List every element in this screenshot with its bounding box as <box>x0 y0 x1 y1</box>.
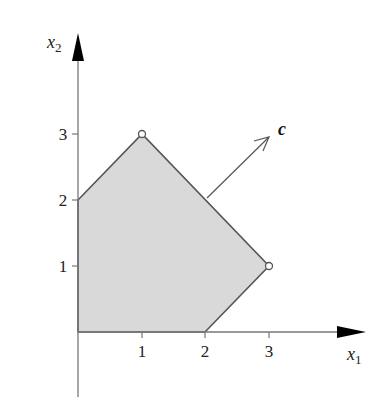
y-tick-label-2: 2 <box>59 191 68 210</box>
feasible-region <box>78 134 269 332</box>
y-ticks <box>72 134 78 266</box>
y-tick-label-3: 3 <box>59 125 68 144</box>
y-axis-label-main: x <box>46 32 55 52</box>
feasible-region-diagram: 1 2 3 1 2 3 x1 x2 c <box>0 0 384 415</box>
x-axis-arrowhead-icon <box>337 326 366 338</box>
vertex-marker-3-1 <box>266 263 273 270</box>
x-tick-label-3: 3 <box>265 342 274 361</box>
x-ticks <box>142 332 269 338</box>
y-axis-label: x2 <box>46 32 62 55</box>
y-tick-label-1: 1 <box>59 257 68 276</box>
objective-vector-label: c <box>278 119 286 139</box>
x-tick-label-1: 1 <box>138 342 147 361</box>
vertex-marker-1-3 <box>139 131 146 138</box>
objective-vector <box>207 137 269 198</box>
y-axis-arrowhead-icon <box>72 33 84 61</box>
x-axis-label-main: x <box>346 344 355 364</box>
x-tick-label-2: 2 <box>201 342 210 361</box>
x-axis-label-sub: 1 <box>355 352 362 367</box>
y-axis-label-sub: 2 <box>55 40 62 55</box>
x-axis-label: x1 <box>346 344 362 367</box>
